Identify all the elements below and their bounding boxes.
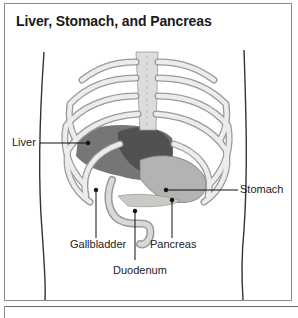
label-pancreas: Pancreas xyxy=(150,238,196,250)
label-stomach: Stomach xyxy=(240,183,283,195)
label-duodenum: Duodenum xyxy=(113,264,167,276)
label-liver: Liver xyxy=(12,136,36,148)
label-gallbladder: Gallbladder xyxy=(70,238,126,250)
